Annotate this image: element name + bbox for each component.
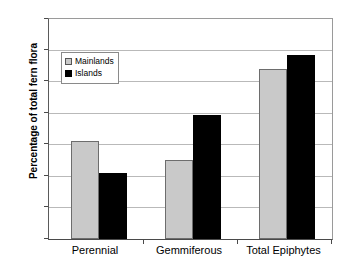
legend-item-label: Mainlands <box>75 57 114 66</box>
legend-item-islands: Islands <box>65 68 114 79</box>
bar-mainlands-total-epiphytes <box>259 69 287 239</box>
bar-islands-total-epiphytes <box>287 55 315 239</box>
bar-islands-gemmiferous <box>193 115 221 239</box>
black-square-icon <box>65 70 72 77</box>
legend-item-label: Islands <box>75 69 102 78</box>
y-axis-title: Percentage of total fern flora <box>26 16 42 206</box>
x-axis-tick-mark <box>331 239 332 244</box>
bar-chart: Percentage of total fern flora 35 30 25 … <box>0 0 344 273</box>
bar-mainlands-perennial <box>71 141 99 239</box>
x-axis-category-label: Gemmiferous <box>142 243 236 257</box>
x-axis-category-label: Perennial <box>48 243 142 257</box>
legend-item-mainlands: Mainlands <box>65 56 114 67</box>
plot-area: Mainlands Islands <box>48 18 333 240</box>
x-axis-category-label: Total Epiphytes <box>236 243 331 257</box>
bar-islands-perennial <box>99 173 127 239</box>
gridline <box>49 50 332 51</box>
bar-mainlands-gemmiferous <box>165 160 193 239</box>
light-gray-square-icon <box>65 58 72 65</box>
legend: Mainlands Islands <box>61 52 119 84</box>
